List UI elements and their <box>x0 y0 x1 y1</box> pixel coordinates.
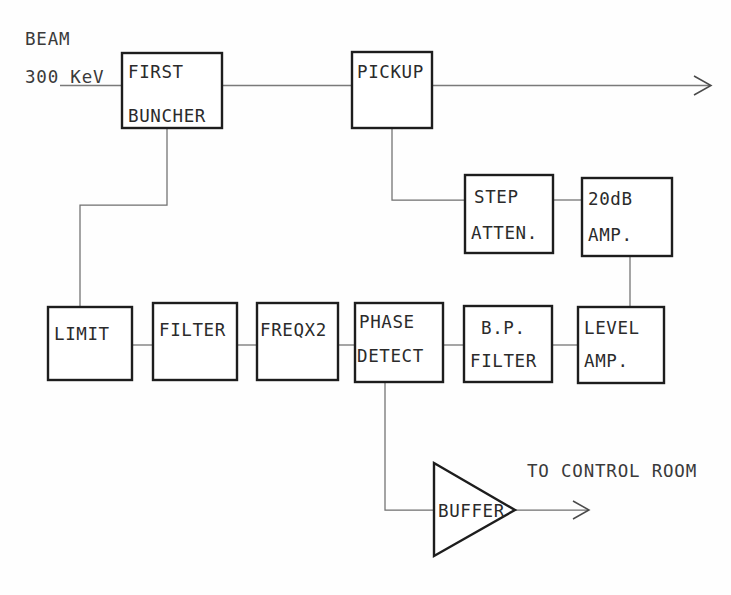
block-pickup-label: PICKUP <box>357 62 424 82</box>
block-phase-detect-label-line2: DETECT <box>357 346 424 366</box>
output-destination-label: TO CONTROL ROOM <box>527 461 697 481</box>
block-level-amp-label-line1: LEVEL <box>584 318 640 338</box>
block-buffer-label: BUFFER <box>438 501 505 521</box>
beam-energy-label: 300 KeV <box>25 67 104 87</box>
block-filter[interactable] <box>153 303 237 380</box>
block-first-buncher-label-line2: BUNCHER <box>128 106 206 126</box>
block-bp-filter-label-line2: FILTER <box>470 351 537 371</box>
block-20db-amp-label-line2: AMP. <box>588 225 633 245</box>
wire-phase-detect-to-buffer <box>385 382 434 510</box>
block-20db-amp-label-line1: 20dB <box>588 189 633 209</box>
block-diagram-canvas: FIRST BUNCHER PICKUP STEP ATTEN. 20dB AM… <box>0 0 731 595</box>
wire-buncher-to-limit <box>80 128 167 307</box>
diagram-svg: FIRST BUNCHER PICKUP STEP ATTEN. 20dB AM… <box>0 0 731 595</box>
wire-pickup-to-step-atten <box>392 128 465 200</box>
beam-label: BEAM <box>25 29 70 49</box>
block-step-atten-label-line1: STEP <box>474 187 519 207</box>
block-phase-detect-label-line1: PHASE <box>359 312 415 332</box>
block-bp-filter-label-line1: B.P. <box>481 318 526 338</box>
block-level-amp-label-line2: AMP. <box>584 351 629 371</box>
block-first-buncher-label-line1: FIRST <box>128 62 184 82</box>
block-limit-label: LIMIT <box>54 324 110 344</box>
block-filter-label: FILTER <box>159 320 226 340</box>
block-freqx2-label: FREQX2 <box>260 320 327 340</box>
block-freqx2[interactable] <box>257 303 338 380</box>
block-step-atten-label-line2: ATTEN. <box>471 223 538 243</box>
